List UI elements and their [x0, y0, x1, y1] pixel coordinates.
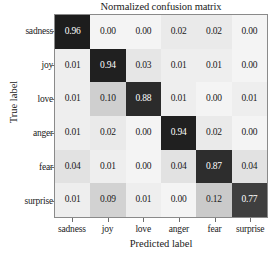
heatmap-cell: 0.01 [55, 183, 90, 217]
y-axis-tick-mark [50, 65, 54, 66]
heatmap-cell: 0.01 [90, 150, 125, 184]
heatmap-cell-value: 0.01 [100, 162, 116, 172]
heatmap-cell-value: 0.96 [65, 27, 81, 37]
heatmap-cell: 0.94 [90, 49, 125, 83]
heatmap-cell: 0.02 [90, 116, 125, 150]
heatmap-cell: 0.88 [126, 82, 161, 116]
heatmap-cell: 0.01 [161, 82, 196, 116]
heatmap-cell: 0.77 [232, 183, 267, 217]
heatmap-cell-value: 0.87 [206, 162, 222, 172]
y-axis-tick-mark [50, 167, 54, 168]
heatmap-cell-value: 0.00 [241, 61, 257, 71]
heatmap-cell: 0.00 [126, 150, 161, 184]
heatmap-cell-value: 0.04 [241, 162, 257, 172]
heatmap-cell-value: 0.02 [206, 27, 222, 37]
x-axis-tick-mark [72, 218, 73, 222]
heatmap-cell: 0.00 [126, 116, 161, 150]
heatmap-cell-value: 0.00 [100, 27, 116, 37]
heatmap-cell-value: 0.94 [171, 128, 187, 138]
heatmap-cell-value: 0.10 [100, 94, 116, 104]
heatmap-cell-value: 0.00 [171, 195, 187, 205]
y-axis-tick-label-surprise: surprise [0, 196, 53, 206]
heatmap-cell-value: 0.04 [65, 162, 81, 172]
x-axis-tick-mark [143, 218, 144, 222]
heatmap-cell: 0.01 [55, 116, 90, 150]
heatmap-cell: 0.00 [196, 82, 231, 116]
heatmap-cell: 0.01 [196, 49, 231, 83]
heatmap-cell-value: 0.00 [206, 94, 222, 104]
heatmap-cell: 0.02 [196, 116, 231, 150]
heatmap-cell-value: 0.01 [65, 61, 81, 71]
heatmap-cell-value: 0.04 [171, 162, 187, 172]
heatmap-cell: 0.02 [196, 15, 231, 49]
heatmap-cell: 0.03 [126, 49, 161, 83]
confusion-matrix-figure: Normalized confusion matrix 0.960.000.00… [0, 0, 275, 264]
heatmap-cell-value: 0.00 [135, 162, 151, 172]
x-axis-tick-mark [108, 218, 109, 222]
x-axis-tick-mark [250, 218, 251, 222]
page-title: Normalized confusion matrix [54, 0, 268, 14]
heatmap-cell: 0.00 [232, 15, 267, 49]
heatmap-cell-value: 0.00 [241, 128, 257, 138]
heatmap-cell: 0.01 [161, 49, 196, 83]
y-axis-tick-label-anger: anger [0, 128, 53, 138]
heatmap-plot-area: 0.960.000.000.020.020.000.010.940.030.01… [54, 14, 268, 218]
heatmap-cell-value: 0.02 [100, 128, 116, 138]
heatmap-cell-value: 0.01 [241, 94, 257, 104]
heatmap-cell: 0.10 [90, 82, 125, 116]
y-axis-tick-label-love: love [0, 94, 53, 104]
heatmap-cell-value: 0.03 [135, 61, 151, 71]
heatmap-cell-value: 0.01 [171, 61, 187, 71]
heatmap-cell: 0.04 [161, 150, 196, 184]
x-axis-tick-mark [215, 218, 216, 222]
y-axis-tick-label-joy: joy [0, 60, 53, 70]
heatmap-cell-value: 0.01 [65, 195, 81, 205]
heatmap-cell-value: 0.12 [206, 195, 222, 205]
heatmap-cell: 0.02 [161, 15, 196, 49]
heatmap-cell: 0.04 [55, 150, 90, 184]
heatmap-cell-value: 0.01 [135, 195, 151, 205]
heatmap-cell: 0.01 [126, 183, 161, 217]
heatmap-cell-value: 0.01 [171, 94, 187, 104]
y-axis-tick-mark [50, 201, 54, 202]
heatmap-cell-value: 0.02 [171, 27, 187, 37]
x-axis-tick-label-surprise: surprise [220, 224, 275, 235]
y-axis-tick-label-sadness: sadness [0, 26, 53, 36]
heatmap-cell-value: 0.09 [100, 195, 116, 205]
heatmap-cell-value: 0.00 [135, 27, 151, 37]
heatmap-cell: 0.01 [55, 82, 90, 116]
heatmap-cell: 0.94 [161, 116, 196, 150]
heatmap-cell-value: 0.01 [206, 61, 222, 71]
heatmap-cell-value: 0.77 [241, 195, 257, 205]
y-axis-tick-mark [50, 133, 54, 134]
heatmap-cell-value: 0.94 [100, 61, 116, 71]
heatmap-cell: 0.00 [126, 15, 161, 49]
heatmap-cell: 0.87 [196, 150, 231, 184]
heatmap-cell-value: 0.01 [65, 94, 81, 104]
x-axis-tick-mark [179, 218, 180, 222]
heatmap-cell-value: 0.01 [65, 128, 81, 138]
y-axis-tick-mark [50, 99, 54, 100]
heatmap-cell: 0.09 [90, 183, 125, 217]
heatmap-cell: 0.01 [55, 49, 90, 83]
heatmap-cell: 0.96 [55, 15, 90, 49]
heatmap-cell: 0.00 [232, 116, 267, 150]
y-axis-tick-label-fear: fear [0, 162, 53, 172]
heatmap-cell: 0.12 [196, 183, 231, 217]
heatmap-cell: 0.00 [232, 49, 267, 83]
heatmap-cell: 0.04 [232, 150, 267, 184]
heatmap-cell-value: 0.00 [135, 128, 151, 138]
heatmap-cell: 0.00 [161, 183, 196, 217]
x-axis-title: Predicted label [54, 238, 268, 250]
heatmap-cell: 0.01 [232, 82, 267, 116]
heatmap-cell-value: 0.02 [206, 128, 222, 138]
heatmap-cell: 0.00 [90, 15, 125, 49]
heatmap-cell-value: 0.88 [135, 94, 151, 104]
y-axis-tick-mark [50, 31, 54, 32]
heatmap-cell-value: 0.00 [241, 27, 257, 37]
